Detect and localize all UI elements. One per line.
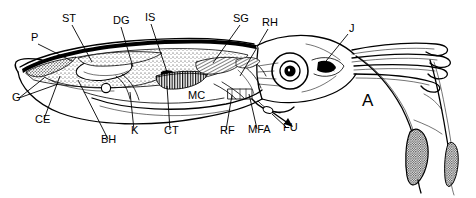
eye-pupil (284, 65, 295, 76)
mantle-cavity-line-3 (100, 106, 230, 116)
leader-RH (240, 29, 268, 76)
label-IS: IS (145, 11, 155, 23)
head-group (236, 35, 356, 127)
funnel-retractor (214, 84, 236, 99)
panel-label-A: A (362, 91, 374, 110)
label-G: G (12, 91, 21, 103)
label-SG: SG (233, 12, 249, 24)
eye-pupil-highlight (288, 68, 290, 71)
label-P: P (31, 31, 38, 43)
label-RH: RH (262, 16, 278, 28)
label-DG: DG (113, 14, 130, 26)
label-CE: CE (35, 113, 50, 125)
label-MFA: MFA (248, 123, 271, 135)
label-BH: BH (101, 133, 116, 145)
squid-anatomy-drawing: P ST DG IS SG RH J G CE BH K CT MC RF MF… (0, 0, 476, 198)
label-FU: FU (283, 121, 298, 133)
tentacular-club-right-tip (451, 183, 454, 195)
funnel-opening (262, 105, 273, 114)
arm-3-lower (354, 69, 435, 71)
arm-4 (354, 74, 440, 92)
label-J: J (349, 22, 355, 34)
label-ST: ST (62, 12, 76, 24)
tentacular-club-left-tip (418, 180, 421, 193)
squid-anatomy-figure: P ST DG IS SG RH J G CE BH K CT MC RF MF… (0, 0, 476, 198)
label-CT: CT (164, 124, 179, 136)
label-MC: MC (188, 89, 205, 101)
label-K: K (131, 124, 139, 136)
branchial-heart (101, 83, 110, 92)
arm-1-lower (352, 48, 434, 54)
tentacular-club-left (406, 129, 428, 185)
tentacular-club-right (445, 142, 459, 186)
label-RF: RF (220, 124, 235, 136)
arms-group (352, 43, 458, 195)
jaw-beak (317, 61, 336, 73)
